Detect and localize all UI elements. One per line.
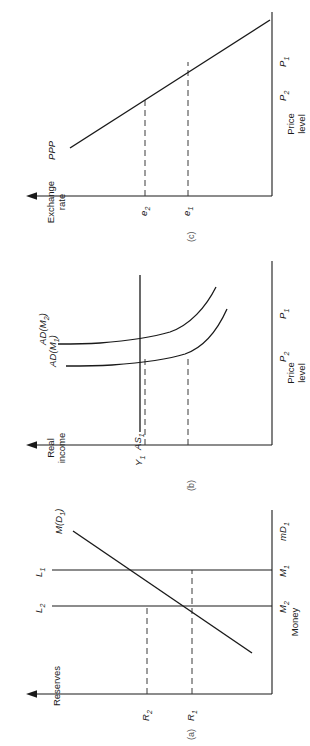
panel-c-xtick-e2: e2 (139, 207, 152, 216)
panel-a-xtick-R2: R2 (141, 710, 154, 721)
panel-b-label-AD-M1: AD(M1) (48, 335, 61, 367)
panel-a-caption: (a) (186, 729, 196, 740)
panel-a-ytick-M1-text: M (277, 569, 288, 577)
panel-b-label-AD-M1-pre: AD(M (47, 342, 58, 367)
panel-a-xtick-R2-sub: 2 (146, 710, 153, 714)
panel-a: M(D1) L2 L1 M2 M1 mD1 R1 (0, 498, 310, 746)
panel-a-xtick-R1-text: R (185, 714, 196, 721)
panel-b-xtick-Y1-sub: 1 (139, 456, 146, 460)
panel-c-xtick-e1-sub: 1 (187, 207, 194, 211)
panel-a-xtick-R1: R1 (186, 710, 199, 721)
panel-b-x-axis-title-line2: income (56, 433, 67, 464)
panel-a-curve-label-MD1: M(D1) (54, 508, 67, 534)
panel-a-line-MD1 (73, 531, 252, 653)
panel-b-ytick-P1: P1 (278, 309, 291, 319)
panel-a-plot (0, 498, 310, 746)
panel-b-label-AD-M1-post: ) (47, 335, 58, 338)
panel-c-xtick-e1: e1 (182, 207, 195, 216)
panel-c-ytick-P1-text: P (277, 61, 288, 67)
panel-a-curve-label-MD1-close: ) (53, 508, 64, 511)
panel-b: AS1 AD(M2) AD(M1) P2 P1 Y1 Pr (0, 249, 310, 497)
panel-b-y-axis-title-line1: Price (285, 362, 296, 384)
panel-b-x-axis-title: Real income (46, 417, 67, 479)
panel-a-label-L2-text: L (33, 608, 44, 613)
panel-a-ytick-mD1: mD1 (278, 522, 291, 541)
panel-b-caption: (b) (186, 480, 196, 491)
panel-a-y-axis-title-line1: Money (289, 608, 300, 637)
panel-b-label-AS1-text: AS (132, 437, 143, 450)
panel-c-label-PPP: PPP (47, 141, 58, 160)
panel-b-ytick-P1-sub: 1 (283, 309, 290, 313)
panel-b-curve-AD-M2 (58, 287, 216, 344)
panel-b-y-axis-title: Price level (286, 333, 307, 413)
panel-a-y-axis-title: Money (290, 587, 301, 657)
panel-c-ytick-P1-sub: 1 (283, 57, 290, 61)
panel-b-xtick-Y1-text: Y (133, 460, 144, 466)
panel-c-x-axis-title-line2: rate (56, 194, 67, 210)
panel-c-xtick-e2-sub: 2 (144, 207, 151, 211)
panel-a-x-axis-title: Reserves (52, 651, 63, 721)
panel-c-xtick-e1-text: e (181, 211, 192, 216)
panel-a-label-L1-sub: 1 (39, 568, 46, 572)
panel-c-caption: (c) (186, 232, 196, 243)
rotated-figure-stage: M(D1) L2 L1 M2 M1 mD1 R1 (0, 0, 310, 746)
panel-a-label-L1-text: L (33, 572, 44, 577)
panel-c-line-PPP (70, 20, 270, 148)
panel-c-y-axis-arrowhead (26, 192, 37, 200)
panel-a-ytick-mD1-text: mD (277, 526, 288, 541)
panel-c-x-axis-title-line1: Exchange (45, 181, 56, 223)
panel-b-label-AS1-sub: 1 (138, 433, 145, 437)
panel-b-ytick-P1-text: P (277, 313, 288, 319)
panel-c-y-axis-title-line2: level (296, 114, 307, 134)
panel-c-y-axis-title: Price level (286, 84, 307, 164)
panel-b-y-axis-title-line2: level (296, 363, 307, 383)
panel-a-ytick-M1: M1 (278, 565, 291, 577)
panel-a-label-L2: L2 (34, 604, 47, 613)
panel-b-x-axis-title-line1: Real (45, 438, 56, 458)
panel-a-ytick-M1-sub: 1 (283, 565, 290, 569)
panel-a-curve-label-MD1-text: M(D (53, 516, 64, 534)
panel-a-label-L1: L1 (34, 568, 47, 577)
panel-a-x-axis-title-line1: Reserves (51, 666, 62, 706)
panel-a-xtick-R2-text: R (140, 714, 151, 721)
panel-a-ytick-M2-sub: 2 (283, 601, 290, 605)
panel-c: PPP P2 P1 e1 e2 Price level Exchange (0, 0, 310, 248)
panel-c-xtick-e2-text: e (138, 211, 149, 216)
panel-b-label-AD-M2-sub: 2 (43, 316, 50, 320)
panel-c-y-axis-title-line1: Price (285, 113, 296, 135)
panel-b-y-axis-arrowhead (26, 441, 37, 449)
panel-a-ytick-mD1-sub: 1 (283, 522, 290, 526)
panel-a-ytick-M2-text: M (277, 605, 288, 613)
panel-a-curve-label-MD1-sub: 1 (59, 512, 66, 516)
panel-a-y-axis-arrowhead (26, 690, 37, 698)
panel-b-label-AD-M2-post: ) (37, 313, 48, 316)
figure-root: M(D1) L2 L1 M2 M1 mD1 R1 (0, 0, 310, 746)
panel-b-label-AD-M1-sub: 1 (53, 338, 60, 342)
panel-c-ytick-P1: P1 (278, 57, 291, 67)
panel-b-xtick-Y1: Y1 (134, 456, 147, 466)
panel-a-label-L2-sub: 2 (39, 604, 46, 608)
panel-b-label-AS1: AS1 (133, 433, 146, 450)
panel-a-xtick-R1-sub: 1 (191, 710, 198, 714)
panel-c-x-axis-title: Exchange rate (46, 166, 67, 238)
